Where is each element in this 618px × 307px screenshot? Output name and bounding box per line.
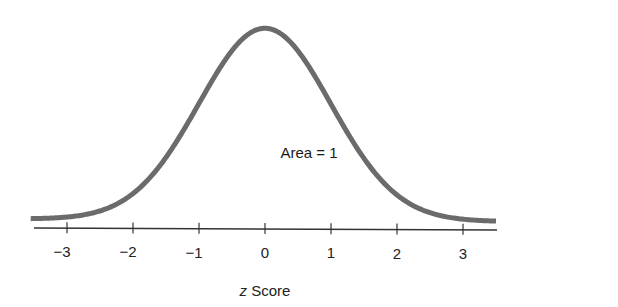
x-axis-title-rest: Score <box>247 282 290 299</box>
normal-curve <box>31 28 496 221</box>
normal-distribution-chart: −3−2−10123 Area = 1 z Score <box>0 0 618 307</box>
x-tick-label: 1 <box>327 244 335 261</box>
area-annotation: Area = 1 <box>280 144 337 161</box>
x-tick-label: −3 <box>53 243 70 260</box>
x-axis-title: z Score <box>239 282 291 299</box>
x-axis: −3−2−10123 <box>34 222 497 262</box>
x-tick-label: 0 <box>261 244 269 261</box>
x-tick-label: 2 <box>393 245 401 262</box>
x-tick-label: −2 <box>119 243 136 260</box>
x-tick-label: −1 <box>185 244 202 261</box>
x-tick-label: 3 <box>459 245 467 262</box>
